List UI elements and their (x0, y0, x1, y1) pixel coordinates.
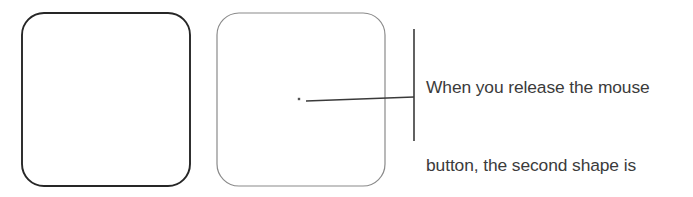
first-shape (22, 13, 190, 186)
center-point-marker (298, 98, 300, 100)
figure-canvas: When you release the mouse button, the s… (0, 0, 693, 197)
callout-leader-line (306, 97, 414, 101)
callout-text-line-2: button, the second shape is (426, 152, 684, 178)
callout-text-block: When you release the mouse button, the s… (426, 22, 684, 197)
callout-text-line-1: When you release the mouse (426, 74, 684, 100)
